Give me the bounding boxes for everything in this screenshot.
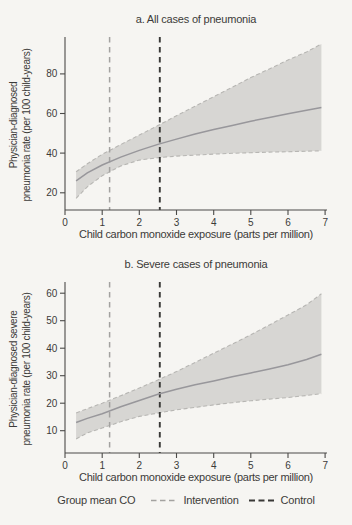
panel-b-confidence-band — [76, 294, 321, 439]
svg-text:40: 40 — [46, 343, 57, 354]
svg-text:2: 2 — [137, 217, 143, 228]
chart-canvas: 204060800123456710203040506001234567 — [0, 0, 352, 525]
svg-text:20: 20 — [46, 187, 57, 198]
svg-text:6: 6 — [285, 460, 291, 471]
legend-item-control: Control — [248, 494, 315, 506]
svg-text:1: 1 — [100, 460, 106, 471]
svg-text:6: 6 — [285, 217, 291, 228]
panel-b-x-axis-label: Child carbon monoxide exposure (parts pe… — [65, 471, 327, 483]
svg-text:3: 3 — [174, 217, 180, 228]
legend-item-intervention: Intervention — [150, 494, 238, 506]
legend-title: Group mean CO — [57, 494, 135, 506]
svg-text:0: 0 — [62, 460, 68, 471]
panel-a-confidence-band — [76, 44, 321, 198]
svg-text:10: 10 — [46, 425, 57, 436]
svg-text:50: 50 — [46, 315, 57, 326]
panel-a-x-axis-label: Child carbon monoxide exposure (parts pe… — [65, 228, 327, 240]
intervention-dash-icon — [150, 496, 178, 505]
svg-text:4: 4 — [211, 217, 217, 228]
svg-text:7: 7 — [322, 460, 328, 471]
legend-label-intervention: Intervention — [183, 494, 238, 506]
svg-text:5: 5 — [248, 460, 254, 471]
legend: Group mean CO Intervention Control — [40, 494, 332, 506]
svg-text:3: 3 — [174, 460, 180, 471]
svg-text:7: 7 — [322, 217, 328, 228]
pneumonia-co-exposure-figure: a. All cases of pneumonia b. Severe case… — [0, 0, 352, 525]
svg-text:1: 1 — [100, 217, 106, 228]
legend-label-control: Control — [281, 494, 315, 506]
svg-text:60: 60 — [46, 288, 57, 299]
svg-text:40: 40 — [46, 148, 57, 159]
svg-text:60: 60 — [46, 108, 57, 119]
svg-text:4: 4 — [211, 460, 217, 471]
svg-text:20: 20 — [46, 398, 57, 409]
svg-text:30: 30 — [46, 370, 57, 381]
svg-text:2: 2 — [137, 460, 143, 471]
svg-text:0: 0 — [62, 217, 68, 228]
control-dash-icon — [248, 496, 276, 505]
svg-text:80: 80 — [46, 68, 57, 79]
svg-text:5: 5 — [248, 217, 254, 228]
